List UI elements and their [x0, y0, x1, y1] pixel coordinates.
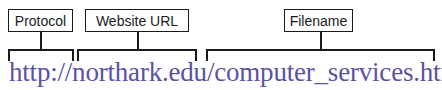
website-url-connector — [137, 32, 139, 49]
protocol-label: Protocol — [8, 9, 73, 32]
filename-bracket-top — [206, 49, 434, 51]
website-url-label: Website URL — [85, 9, 189, 32]
filename-connector — [320, 32, 322, 49]
website-url-bracket-top — [77, 49, 196, 51]
filename-label: Filename — [284, 9, 353, 32]
protocol-bracket-top — [8, 49, 74, 51]
url-text: http://northark.edu/computer_services.ht… — [9, 57, 442, 88]
protocol-connector — [40, 32, 42, 49]
